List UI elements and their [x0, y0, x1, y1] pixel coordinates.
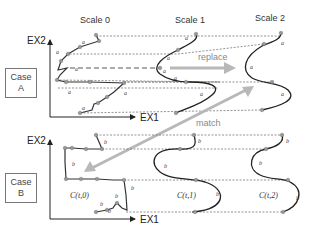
case-b-scale-0-points: [63, 133, 126, 214]
svg-text:b: b: [259, 160, 262, 166]
svg-text:b: b: [296, 195, 299, 201]
svg-text:b: b: [131, 185, 134, 191]
svg-text:a: a: [82, 105, 85, 111]
replace-label: replace: [198, 52, 228, 62]
case-a-guides: [56, 36, 280, 113]
case-a-y-label: EX2: [27, 35, 46, 46]
svg-text:a: a: [281, 91, 284, 97]
case-b-guides: [96, 135, 288, 212]
svg-text:b: b: [115, 193, 118, 199]
svg-text:b: b: [72, 161, 75, 167]
curve-label-scale-1: C(t,1): [177, 191, 196, 200]
svg-text:b: b: [104, 139, 107, 145]
match-label: match: [196, 118, 221, 128]
case-b-scale-1-curve: [154, 135, 220, 212]
match-arrow: match: [84, 86, 254, 172]
svg-text:a: a: [163, 68, 166, 74]
svg-text:a: a: [167, 55, 170, 61]
svg-text:a: a: [250, 64, 253, 70]
svg-text:b: b: [100, 201, 103, 207]
case-a-scale-2-curve: [245, 32, 290, 110]
case-a-scale-2-points: [260, 31, 283, 112]
svg-text:b: b: [164, 163, 167, 169]
multiscale-diagram: Scale 0 Scale 1 Scale 2 EX2 EX1: [0, 0, 326, 234]
svg-text:a: a: [174, 75, 177, 81]
case-a-x-label: EX1: [140, 112, 159, 123]
case-b-y-label: EX2: [27, 135, 46, 146]
case-a-scale-0-points: [55, 33, 126, 115]
svg-text:a: a: [82, 39, 85, 45]
svg-text:a: a: [124, 90, 127, 96]
svg-text:a: a: [68, 89, 71, 95]
replace-arrow: replace: [170, 52, 236, 74]
scale-1-title: Scale 1: [175, 15, 205, 25]
svg-text:a: a: [75, 66, 78, 72]
svg-text:a: a: [56, 49, 59, 55]
case-a-scale-0-curve: [57, 35, 124, 113]
svg-text:b: b: [216, 191, 219, 197]
case-a-axes: EX2 EX1: [27, 35, 159, 123]
case-a-segment-labels: a a a a a a a a a a a a a a: [56, 35, 284, 111]
case-b-scale-2-curve: [251, 135, 298, 212]
svg-text:a: a: [200, 91, 203, 97]
scale-0-title: Scale 0: [80, 15, 110, 25]
svg-text:a: a: [281, 40, 284, 46]
svg-text:b: b: [286, 138, 289, 144]
svg-text:b: b: [198, 138, 201, 144]
case-b-scale-0-curve: [65, 135, 127, 212]
svg-text:a: a: [185, 35, 188, 41]
case-b-x-label: EX1: [140, 214, 159, 225]
curve-label-scale-0: C(t,0): [70, 191, 89, 200]
curve-label-scale-2: C(t,2): [259, 191, 278, 200]
svg-text:b: b: [108, 208, 111, 214]
scale-2-title: Scale 2: [255, 13, 285, 23]
